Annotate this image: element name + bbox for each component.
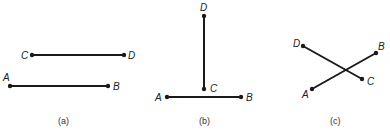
point-a (8, 84, 12, 88)
point-b (239, 95, 243, 99)
label-d: D (128, 50, 135, 61)
panel-b: D C A B (b) (154, 2, 253, 126)
point-c (30, 53, 34, 57)
label-a: A (301, 89, 309, 100)
label-b: B (378, 41, 385, 52)
point-d (122, 53, 126, 57)
label-a: A (154, 92, 162, 103)
label-b: B (246, 92, 253, 103)
label-c: C (210, 83, 218, 94)
label-c: C (21, 50, 29, 61)
caption-b: (b) (199, 116, 210, 126)
label-c: C (367, 76, 375, 87)
point-d (301, 44, 305, 48)
label-b: B (113, 81, 120, 92)
panel-a: C D A B (a) (2, 50, 135, 126)
point-b (106, 84, 110, 88)
point-c (360, 77, 364, 81)
caption-c: (c) (330, 116, 341, 126)
point-c (202, 87, 206, 91)
caption-a: (a) (58, 116, 69, 126)
label-d: D (293, 38, 300, 49)
point-a (310, 87, 314, 91)
label-a: A (2, 72, 10, 83)
segment-dc (303, 46, 362, 79)
figure-canvas: C D A B (a) D C A B (b) D C A B (c) (0, 0, 390, 133)
label-d: D (200, 2, 207, 13)
point-d (202, 14, 206, 18)
point-a (165, 95, 169, 99)
panel-c: D C A B (c) (293, 38, 385, 126)
